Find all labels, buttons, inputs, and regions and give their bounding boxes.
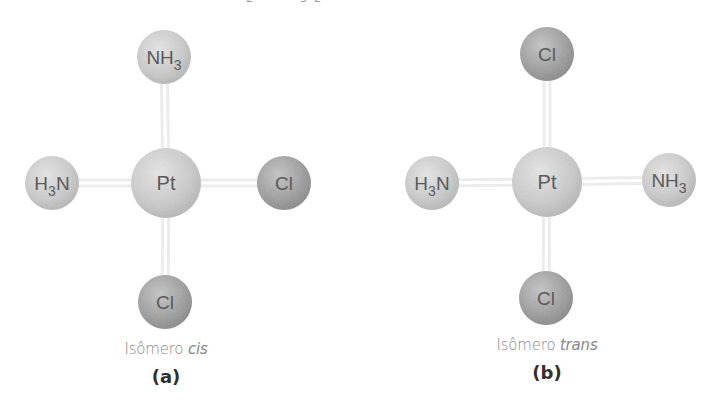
atom-label: Cl: [538, 44, 556, 65]
panel-label-a: (a): [126, 366, 206, 387]
atom-nh3-left: H3N: [405, 156, 459, 210]
atom-cl-bottom: Cl: [519, 271, 573, 325]
atom-label: Cl: [156, 292, 174, 313]
isomer-caption-b: Isômero trans: [467, 336, 627, 354]
atom-label: Cl: [275, 173, 293, 194]
atom-pt-a: Pt: [131, 148, 201, 218]
atom-nh3-right: NH3: [642, 153, 696, 207]
atom-cl-right: Cl: [257, 156, 311, 210]
atom-cl-bottom: Cl: [138, 275, 192, 329]
atom-pt-b: Pt: [512, 147, 582, 217]
atom-label: Cl: [537, 288, 555, 309]
atom-label: Pt: [538, 171, 557, 193]
atom-label: Pt: [157, 172, 176, 194]
atom-nh3-top: NH3: [137, 30, 191, 84]
panel-label-b: (b): [507, 362, 587, 383]
atom-nh3-left: H3N: [25, 156, 79, 210]
isomer-caption-a: Isômero cis: [86, 340, 246, 358]
atom-cl-top: Cl: [520, 27, 574, 81]
